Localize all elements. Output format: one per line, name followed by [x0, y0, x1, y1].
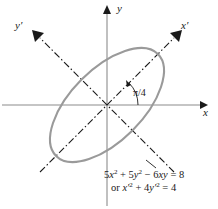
y-axis-arrowhead: [103, 5, 111, 14]
eq1-rhs: 8: [179, 169, 184, 180]
x-prime-axis-group: [40, 30, 182, 172]
eq2-plus: +: [133, 182, 144, 193]
eq1-minus: −: [142, 169, 153, 180]
eq1-plus: +: [117, 169, 128, 180]
eq1-equals: =: [168, 169, 179, 180]
equation-block: 5x2 + 5y2 − 6xy = 8 or x′2 + 4y′2 = 4: [104, 168, 184, 194]
eq1-var-c: xy: [158, 169, 167, 180]
equation-line-1: 5x2 + 5y2 − 6xy = 8: [104, 168, 184, 181]
y-axis-label: y: [117, 3, 122, 14]
x-prime-axis-label: x′: [181, 20, 188, 31]
equation-line-2: or x′2 + 4y′2 = 4: [104, 181, 184, 194]
x-axis-label: x: [203, 107, 208, 118]
conic-rotation-figure: y x x′ y′ π/4 5x2 + 5y2 − 6xy = 8 or x′2…: [0, 0, 218, 209]
y-prime-axis-label: y′: [15, 20, 22, 31]
eq2-rhs: 4: [171, 182, 176, 193]
eq2-or: or: [111, 182, 122, 193]
rotation-angle-label: π/4: [133, 88, 146, 98]
equation-leader-line: [146, 160, 156, 168]
eq2-equals: =: [160, 182, 171, 193]
x-axis-group: [2, 101, 208, 109]
